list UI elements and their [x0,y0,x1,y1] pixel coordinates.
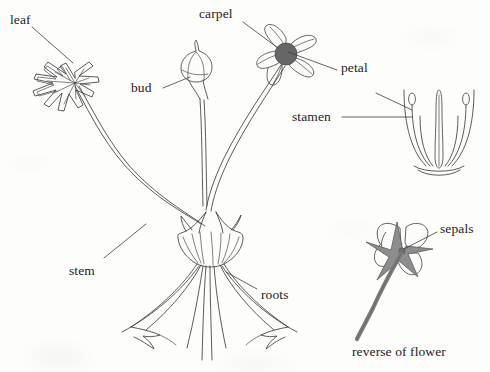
basal-rosette [178,212,243,267]
bud-stalk [200,99,207,206]
leader-leaf [32,27,73,63]
diagram-page: .ink { fill: none; stroke: #3f3f3f; stro… [0,0,490,372]
anther-left [409,93,416,105]
stamen-cross-section [404,90,474,175]
bud-illustration [181,40,212,99]
flower-illustration [257,25,317,86]
leaf-stem [75,86,205,226]
flower-stalk [206,65,285,211]
label-roots: roots [261,288,289,302]
label-sepals: sepals [440,222,474,236]
label-carpel: carpel [199,7,233,21]
leader-bud [163,77,190,88]
label-stem: stem [69,264,95,278]
label-leaf: leaf [10,13,31,27]
label-stamen: stamen [292,110,331,124]
leader-stem [104,224,146,258]
caption-reverse-of-flower: reverse of flower [352,345,446,359]
roots-illustration [122,264,297,360]
anther-right [463,93,470,105]
leader-stamen-upper [376,93,412,110]
label-bud: bud [131,81,152,95]
botanical-diagram-artboard: .ink { fill: none; stroke: #3f3f3f; stro… [0,0,490,372]
label-petal: petal [341,61,368,75]
